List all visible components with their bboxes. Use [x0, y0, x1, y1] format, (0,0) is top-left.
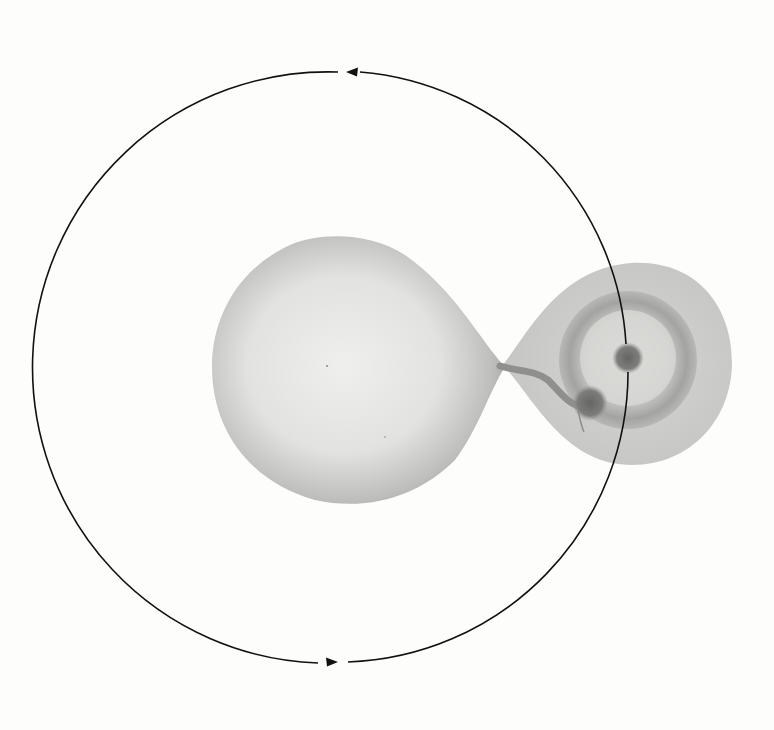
speck	[384, 436, 386, 438]
speck	[326, 365, 328, 367]
hot-spot	[572, 385, 608, 421]
donor-star	[212, 236, 505, 504]
orbit-arrow-bottom-icon	[326, 658, 338, 667]
binary-star-diagram	[0, 0, 774, 730]
compact-object	[612, 342, 644, 374]
orbit-arrow-top-icon	[346, 68, 358, 77]
